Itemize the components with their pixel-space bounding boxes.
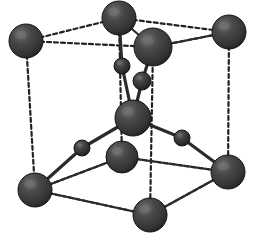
atom-large-back-right-top-highlight [218,21,230,30]
atom-large-front-top-center-highlight [141,35,154,45]
atom-small-lower-right-body [174,130,190,146]
atom-small-upper-left [114,58,130,74]
edge-dashed-vertical-back-right [228,32,229,172]
atom-small-lower-right-highlight [177,133,182,137]
atom-large-front-bottom-highlight [139,204,151,213]
atom-large-mid-bottom-highlight [112,147,123,155]
atom-small-upper-right [133,72,151,90]
atom-small-upper-left-highlight [117,61,122,65]
atom-large-back-right-bottom [211,155,245,189]
atom-large-back-right-bottom-highlight [217,161,229,170]
atom-large-center-highlight [121,107,133,116]
atom-large-back-left-bottom-highlight [24,179,36,188]
atom-small-upper-left-body [114,58,130,74]
atom-large-front-top-center-body [134,28,172,66]
atom-large-back-top-highlight [108,7,120,16]
atom-large-back-left-top-body [9,24,43,58]
atom-large-back-left-bottom [18,173,52,207]
atom-large-back-right-top [212,15,246,49]
crystal-structure-figure [0,0,253,237]
atom-small-upper-right-highlight [136,75,142,80]
atom-large-back-left-top-highlight [15,30,27,39]
atom-large-back-left-bottom-body [18,173,52,207]
atom-large-center-body [115,100,151,136]
atom-large-back-top [102,1,136,35]
atom-large-back-right-top-body [212,15,246,49]
edge-dashed-vertical-front-top [150,47,153,215]
atom-large-back-top-body [102,1,136,35]
crystal-structure-canvas [0,0,253,237]
atom-large-back-left-top [9,24,43,58]
atom-small-lower-right [174,130,190,146]
atom-large-front-bottom [133,198,167,232]
atom-large-back-right-bottom-body [211,155,245,189]
edge-back-left-bottom-to-front-bottom [35,190,150,215]
atom-small-lower-left-body [74,140,90,156]
edge-dashed-vertical-back-left [26,41,35,190]
atom-large-mid-bottom-body [106,141,138,173]
atom-small-lower-left [74,140,90,156]
atom-large-center [115,100,151,136]
atom-large-mid-bottom [106,141,138,173]
atom-large-front-bottom-body [133,198,167,232]
atom-small-upper-right-body [133,72,151,90]
atom-large-front-top-center [134,28,172,66]
atom-small-lower-left-highlight [77,143,82,147]
